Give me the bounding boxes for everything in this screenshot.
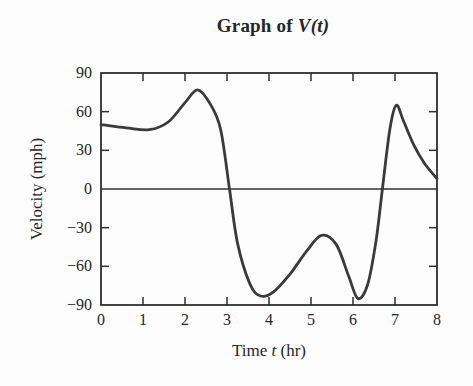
x-tick-label: 4	[254, 311, 284, 329]
figure-canvas: Graph ofV(t) 9060300−30−60−90012345678 V…	[0, 0, 473, 386]
x-axis-label-var: t	[272, 341, 277, 360]
x-tick-label: 3	[212, 311, 242, 329]
x-tick-label: 6	[338, 311, 368, 329]
x-tick-label: 8	[422, 311, 452, 329]
x-tick-label: 5	[296, 311, 326, 329]
x-tick-label: 0	[86, 311, 116, 329]
velocity-curve	[101, 90, 437, 299]
x-tick-label: 2	[170, 311, 200, 329]
y-axis-label: Velocity (mph)	[27, 67, 49, 311]
x-axis-label: Time t (hr)	[101, 341, 437, 361]
x-axis-label-pre: Time	[232, 341, 267, 360]
x-tick-label: 1	[128, 311, 158, 329]
x-tick-label: 7	[380, 311, 410, 329]
x-axis-label-post: (hr)	[281, 341, 306, 360]
